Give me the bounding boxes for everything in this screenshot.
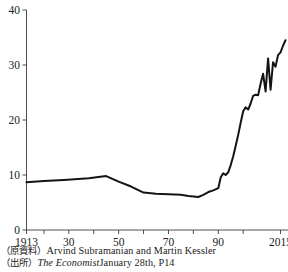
data-line-value: [27, 40, 286, 197]
line-chart: 010203040 1913305070902015 （原資料）Arvind S…: [0, 0, 288, 272]
source-line-publication: （出所）The EconomistJanuary 28th, P14: [1, 257, 288, 269]
y-tick-label: 10: [9, 169, 21, 181]
y-tick-label: 30: [9, 59, 21, 71]
source-issue-text: January 28th, P14: [100, 257, 175, 268]
source-publication-name: The Economist: [37, 257, 99, 268]
source-text-original: Arvind Subramanian and Martin Kessler: [47, 245, 217, 256]
data-series-group: [27, 40, 286, 197]
chart-canvas: 010203040 1913305070902015: [0, 0, 288, 272]
y-tick-label: 0: [14, 224, 20, 236]
y-axis: 010203040: [9, 4, 27, 236]
source-label-publication: （出所）: [1, 257, 37, 268]
y-tick-label: 40: [9, 4, 21, 16]
y-tick-label: 20: [9, 114, 21, 126]
source-notes: （原資料）Arvind Subramanian and Martin Kessl…: [1, 245, 288, 268]
source-line-original: （原資料）Arvind Subramanian and Martin Kessl…: [1, 245, 288, 257]
source-label-original: （原資料）: [1, 245, 47, 256]
